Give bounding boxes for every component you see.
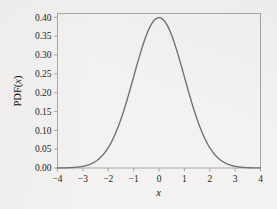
y-axis-title-prefix: PDF( — [12, 83, 24, 106]
y-axis-title-suffix: ) — [12, 75, 24, 79]
x-tick-label: 4 — [258, 174, 263, 184]
y-tick-label: 0.25 — [35, 69, 52, 79]
x-axis-title: x — [155, 187, 161, 198]
x-tick-label: −3 — [78, 174, 88, 184]
y-tick-label: 0.15 — [35, 107, 52, 117]
y-tick-label: 0.35 — [35, 31, 52, 41]
x-tick-label: 0 — [157, 174, 162, 184]
y-tick-label: 0.10 — [35, 126, 52, 136]
y-axis-tick-labels: 0.000.050.100.150.200.250.300.350.40 — [35, 13, 52, 174]
plot-frame — [58, 14, 261, 169]
y-tick-label: 0.30 — [35, 50, 52, 60]
figure-container: 0.000.050.100.150.200.250.300.350.40 −4−… — [0, 0, 277, 209]
y-tick-label: 0.00 — [35, 163, 52, 173]
svg-text:PDF(x): PDF(x) — [12, 75, 24, 106]
x-tick-label: −4 — [52, 174, 62, 184]
y-tick-label: 0.40 — [35, 13, 52, 23]
y-axis-title: PDF(x) — [12, 75, 24, 106]
x-tick-label: −2 — [103, 174, 113, 184]
x-tick-label: 1 — [182, 174, 187, 184]
x-tick-label: 2 — [207, 174, 212, 184]
x-axis-ticks — [58, 168, 261, 172]
normal-distribution-chart: 0.000.050.100.150.200.250.300.350.40 −4−… — [0, 0, 277, 209]
y-tick-label: 0.20 — [35, 88, 52, 98]
x-tick-label: 3 — [233, 174, 238, 184]
x-axis-tick-labels: −4−3−2−101234 — [52, 174, 263, 184]
x-tick-label: −1 — [129, 174, 139, 184]
pdf-curve — [58, 18, 261, 168]
y-axis-ticks — [54, 17, 58, 168]
y-tick-label: 0.05 — [35, 144, 52, 154]
